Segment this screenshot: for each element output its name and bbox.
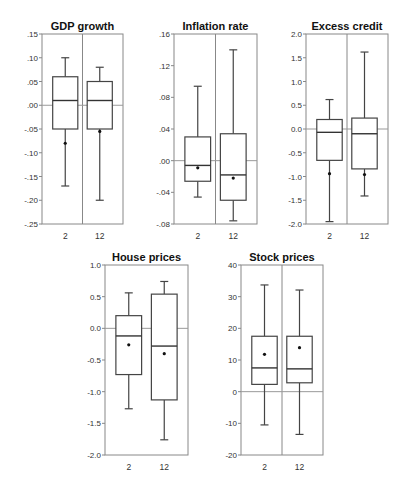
box-12 [220,50,246,221]
box-2 [252,285,277,425]
y-tick-label: -.25 [24,220,38,229]
panel-excess-credit: Excess credit2.01.51.00.50.0-0.5-1.0-1.5… [288,20,388,241]
y-tick-label: 1.0 [291,78,303,87]
mean-marker [363,173,366,176]
mean-marker [328,172,331,175]
box-12 [287,290,312,434]
y-tick-label: -1.5 [288,196,302,205]
y-tick-label: -20 [225,451,237,460]
mean-marker [163,352,166,355]
y-tick-label: 1.0 [90,261,102,270]
x-tick-label: 2 [262,462,267,472]
y-tick-label: .10 [27,54,39,63]
y-tick-label: 0.0 [291,125,303,134]
box-plots-canvas: GDP growth.15.10.05.00-.05-.10-.15-.20-.… [0,0,403,489]
y-tick-label: .05 [27,78,39,87]
mean-marker [64,142,67,145]
y-tick-label: .16 [159,30,171,39]
x-tick-label: 12 [160,462,170,472]
y-tick-label: -0.5 [288,149,302,158]
y-tick-label: 0.5 [90,293,102,302]
y-tick-label: 10 [228,356,237,365]
x-tick-label: 12 [229,231,239,241]
x-tick-label: 12 [295,462,305,472]
mean-marker [232,176,235,179]
y-tick-label: -2.0 [288,220,302,229]
box-2 [53,58,78,186]
box-2 [185,86,211,197]
mean-marker [298,346,301,349]
x-tick-label: 2 [195,231,200,241]
box-12 [352,52,377,196]
y-tick-label: .00 [159,157,171,166]
y-tick-label: -.04 [156,188,170,197]
panel-title: Stock prices [249,251,314,263]
y-tick-label: 1.5 [291,54,303,63]
x-tick-label: 2 [327,231,332,241]
y-tick-label: -1.5 [87,419,101,428]
y-tick-label: -.20 [24,196,38,205]
panel-gdp-growth: GDP growth.15.10.05.00-.05-.10-.15-.20-.… [24,20,123,241]
y-tick-label: 30 [228,293,237,302]
y-tick-label: 2.0 [291,30,303,39]
y-tick-label: -.05 [24,125,38,134]
panel-house-prices: House prices1.00.50.0-0.5-1.0-1.5-2.0212 [87,251,188,472]
y-tick-label: -0.5 [87,356,101,365]
mean-marker [127,343,130,346]
panel-title: GDP growth [51,20,115,32]
y-tick-label: .12 [159,62,171,71]
panel-title: House prices [112,251,181,263]
panel-stock-prices: Stock prices403020100-10-20212 [225,251,323,472]
mean-marker [196,166,199,169]
y-tick-label: 0.5 [291,101,303,110]
y-tick-label: .00 [27,101,39,110]
box-12 [151,281,177,439]
y-tick-label: .04 [159,125,171,134]
x-tick-label: 12 [360,231,370,241]
x-tick-label: 2 [63,231,68,241]
x-tick-label: 12 [95,231,105,241]
y-tick-label: -.10 [24,149,38,158]
box-12 [87,67,112,200]
y-tick-label: -1.0 [288,173,302,182]
y-tick-label: 0.0 [90,324,102,333]
panel-inflation-rate: Inflation rate.16.12.08.04.00-.04-.08212 [156,20,257,241]
y-tick-label: 40 [228,261,237,270]
x-tick-label: 2 [126,462,131,472]
y-tick-label: 0 [233,388,238,397]
y-tick-label: .15 [27,30,39,39]
panel-title: Excess credit [312,20,383,32]
y-tick-label: -2.0 [87,451,101,460]
panel-title: Inflation rate [182,20,248,32]
mean-marker [263,353,266,356]
mean-marker [98,130,101,133]
y-tick-label: -10 [225,419,237,428]
y-tick-label: -1.0 [87,388,101,397]
y-tick-label: -.08 [156,220,170,229]
y-tick-label: 20 [228,324,237,333]
y-tick-label: -.15 [24,173,38,182]
box-2 [116,293,142,409]
box-2 [317,100,342,222]
y-tick-label: .08 [159,93,171,102]
